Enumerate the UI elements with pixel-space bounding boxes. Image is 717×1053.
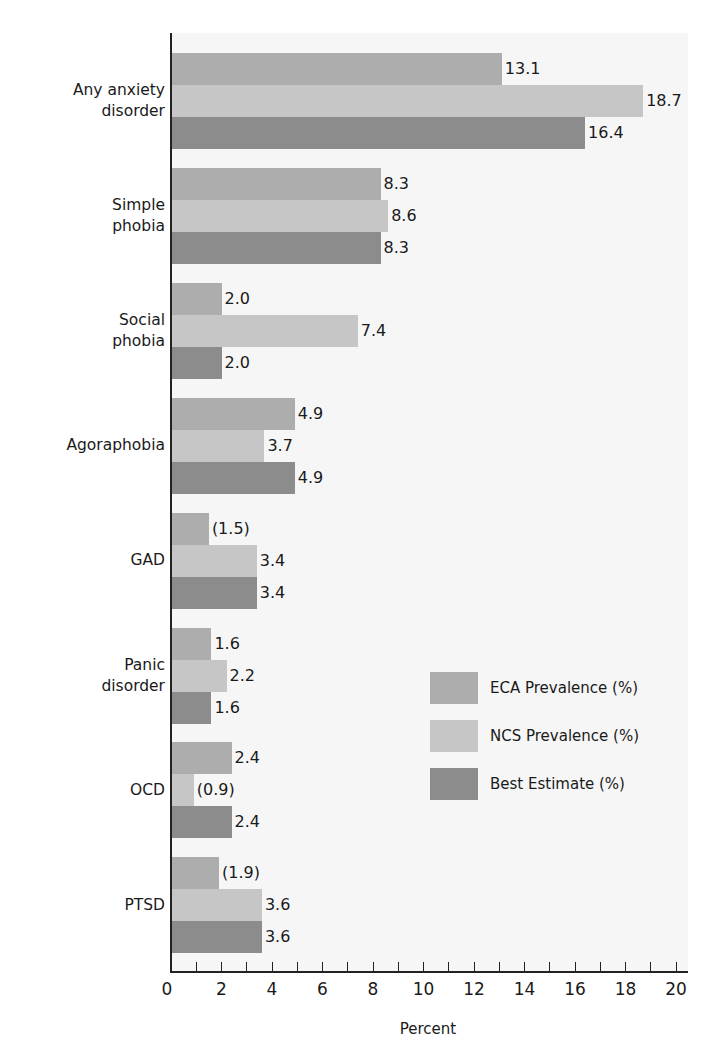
- bar-eca: [171, 742, 232, 774]
- category-label: Socialphobia: [0, 310, 165, 352]
- category-label: Agoraphobia: [0, 435, 165, 456]
- bar-value-label: 3.4: [260, 577, 285, 609]
- x-tick: [373, 962, 374, 971]
- x-tick: [625, 962, 626, 971]
- bar-eca: [171, 513, 209, 545]
- bar-best-estimate: [171, 806, 232, 838]
- bar-ncs: [171, 315, 358, 347]
- bar-value-label: 8.6: [391, 200, 416, 232]
- legend-swatch: [430, 768, 478, 800]
- x-tick-label: 18: [606, 979, 646, 999]
- x-tick: [499, 962, 500, 971]
- bar-ncs: [171, 889, 262, 921]
- x-tick-label: 8: [353, 979, 393, 999]
- bar-eca: [171, 53, 502, 85]
- x-tick: [297, 962, 298, 971]
- x-tick: [398, 962, 399, 971]
- bar-ncs: [171, 660, 227, 692]
- bar-eca: [171, 168, 381, 200]
- x-tick: [246, 962, 247, 971]
- x-tick: [347, 962, 348, 971]
- bar-value-label: 2.4: [235, 742, 260, 774]
- bar-value-label: 4.9: [298, 398, 323, 430]
- x-tick: [575, 962, 576, 971]
- x-tick: [524, 962, 525, 971]
- category-label: GAD: [0, 550, 165, 571]
- x-tick: [322, 962, 323, 971]
- bar-ncs: [171, 85, 643, 117]
- x-tick-label: 12: [454, 979, 494, 999]
- bar-value-label: (0.9): [197, 774, 235, 806]
- bar-value-label: 1.6: [214, 628, 239, 660]
- bar-value-label: 18.7: [646, 85, 682, 117]
- bar-best-estimate: [171, 347, 222, 379]
- x-tick-label: 20: [656, 979, 696, 999]
- category-label: OCD: [0, 780, 165, 801]
- x-tick-label: 2: [202, 979, 242, 999]
- legend-swatch: [430, 720, 478, 752]
- x-tick-label: 0: [147, 979, 187, 999]
- x-tick: [272, 962, 273, 971]
- x-tick-label: 10: [404, 979, 444, 999]
- x-tick: [600, 962, 601, 971]
- bar-best-estimate: [171, 117, 585, 149]
- bar-ncs: [171, 200, 388, 232]
- category-label: Simplephobia: [0, 195, 165, 237]
- y-axis-line: [170, 33, 172, 972]
- bar-ncs: [171, 430, 264, 462]
- x-tick: [650, 962, 651, 971]
- bar-ncs: [171, 774, 194, 806]
- bar-value-label: 8.3: [384, 232, 409, 264]
- category-label: Panicdisorder: [0, 655, 165, 697]
- bar-value-label: (1.9): [222, 857, 260, 889]
- x-axis-title: Percent: [378, 1020, 478, 1038]
- bar-best-estimate: [171, 921, 262, 953]
- bar-value-label: 2.0: [225, 283, 250, 315]
- bar-eca: [171, 283, 222, 315]
- bar-value-label: 4.9: [298, 462, 323, 494]
- bar-value-label: 3.4: [260, 545, 285, 577]
- bar-value-label: (1.5): [212, 513, 250, 545]
- bar-value-label: 1.6: [214, 692, 239, 724]
- bar-best-estimate: [171, 577, 257, 609]
- x-axis-line: [170, 971, 688, 973]
- x-tick: [221, 962, 222, 971]
- x-tick: [474, 962, 475, 971]
- bar-value-label: 13.1: [505, 53, 541, 85]
- bar-value-label: 2.4: [235, 806, 260, 838]
- bar-ncs: [171, 545, 257, 577]
- bar-best-estimate: [171, 232, 381, 264]
- x-tick: [448, 962, 449, 971]
- bar-best-estimate: [171, 692, 211, 724]
- bar-eca: [171, 628, 211, 660]
- bar-value-label: 7.4: [361, 315, 386, 347]
- x-tick: [423, 962, 424, 971]
- x-tick: [676, 962, 677, 971]
- legend-label: Best Estimate (%): [490, 768, 625, 800]
- bar-value-label: 8.3: [384, 168, 409, 200]
- bar-value-label: 3.6: [265, 889, 290, 921]
- bar-value-label: 2.2: [230, 660, 255, 692]
- legend-label: NCS Prevalence (%): [490, 720, 639, 752]
- bar-eca: [171, 857, 219, 889]
- category-label: Any anxietydisorder: [0, 80, 165, 122]
- bar-value-label: 16.4: [588, 117, 624, 149]
- category-label: PTSD: [0, 895, 165, 916]
- x-tick-label: 6: [303, 979, 343, 999]
- bar-value-label: 2.0: [225, 347, 250, 379]
- x-tick-label: 14: [505, 979, 545, 999]
- x-tick-label: 4: [252, 979, 292, 999]
- bar-eca: [171, 398, 295, 430]
- bar-value-label: 3.7: [267, 430, 292, 462]
- legend-swatch: [430, 672, 478, 704]
- x-tick-label: 16: [555, 979, 595, 999]
- bar-value-label: 3.6: [265, 921, 290, 953]
- bar-best-estimate: [171, 462, 295, 494]
- x-tick: [549, 962, 550, 971]
- horizontal-bar-chart: 13.118.716.48.38.68.32.07.42.04.93.74.9(…: [0, 0, 717, 1053]
- legend-label: ECA Prevalence (%): [490, 672, 638, 704]
- x-tick: [196, 962, 197, 971]
